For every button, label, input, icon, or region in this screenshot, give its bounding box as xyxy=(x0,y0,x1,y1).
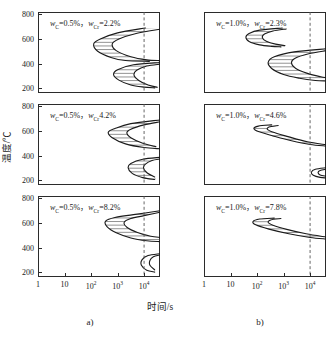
curve-bainite-finish-b1 xyxy=(291,51,326,78)
x-tick-label: 104 xyxy=(305,280,316,291)
x-tick-mark xyxy=(38,273,39,277)
y-tick-mark xyxy=(38,39,42,40)
y-tick-label: 400 xyxy=(14,59,34,68)
subcaption-a: a) xyxy=(70,317,110,327)
x-tick-label: 10 xyxy=(61,280,69,289)
y-tick-mark xyxy=(38,248,42,249)
y-tick-label: 800 xyxy=(14,10,34,19)
ttt-panel-b3: wC=1.0%，wCr=7.8% xyxy=(204,196,326,277)
curve-bainite-finish-a2 xyxy=(143,159,160,177)
x-tick-label: 1 xyxy=(202,280,206,289)
x-tick-mark xyxy=(310,273,311,277)
x-tick-label: 104 xyxy=(139,280,150,291)
y-tick-label: 400 xyxy=(14,151,34,160)
curve-pearlite-finish-a3 xyxy=(124,212,160,237)
x-tick-mark xyxy=(257,273,258,277)
y-axis-title: 温度/℃ xyxy=(0,127,13,167)
y-tick-mark xyxy=(38,106,42,107)
hatch-band-a2-0 xyxy=(38,120,160,149)
x-tick-mark xyxy=(144,273,145,277)
x-tick-mark xyxy=(284,273,285,277)
y-tick-mark xyxy=(38,64,42,65)
hatch-band-a1-1 xyxy=(38,63,160,88)
x-tick-mark xyxy=(65,273,66,277)
condition-label-b2: wC=1.0%，wCr=4.6% xyxy=(216,109,286,122)
y-tick-mark xyxy=(38,14,42,15)
x-tick-label: 102 xyxy=(86,280,97,291)
ttt-panel-a2: wC=0.5%，wCr4.2% xyxy=(38,104,160,185)
x-tick-label: 1 xyxy=(36,280,40,289)
x-tick-label: 10 xyxy=(227,280,235,289)
ttt-panel-a3: wC=0.5%，wCr=8.2% xyxy=(38,196,160,277)
x-tick-mark xyxy=(204,273,205,277)
condition-label-b3: wC=1.0%，wCr=7.8% xyxy=(216,201,286,214)
curve-bainite-finish-b2 xyxy=(318,169,326,176)
y-tick-label: 200 xyxy=(14,84,34,93)
subcaption-b: b) xyxy=(240,317,280,327)
y-tick-mark xyxy=(38,88,42,89)
hatch-band-b1-0 xyxy=(204,28,326,46)
hatch-band-a2-1 xyxy=(38,157,160,179)
y-tick-label: 200 xyxy=(14,268,34,277)
y-tick-label: 600 xyxy=(14,35,34,44)
y-tick-label: 400 xyxy=(14,243,34,252)
x-tick-label: 103 xyxy=(278,280,289,291)
y-tick-label: 800 xyxy=(14,194,34,203)
x-tick-label: 102 xyxy=(252,280,263,291)
condition-label-a1: wC=0.5%，wCr=2.2% xyxy=(50,17,120,30)
ttt-panel-a1: wC=0.5%，wCr=2.2% xyxy=(38,12,160,93)
ttt-panel-b1: wC=1.0%，wCr=2.3% xyxy=(204,12,326,93)
hatch-band-a3-0 xyxy=(38,211,160,240)
y-tick-label: 800 xyxy=(14,102,34,111)
y-tick-mark xyxy=(38,223,42,224)
condition-label-a2: wC=0.5%，wCr4.2% xyxy=(50,109,116,122)
ttt-panel-b2: wC=1.0%，wCr=4.6% xyxy=(204,104,326,185)
curve-bainite-finish-a3 xyxy=(149,255,160,270)
condition-label-b1: wC=1.0%，wCr=2.3% xyxy=(216,17,286,30)
x-tick-mark xyxy=(91,273,92,277)
x-tick-label: 103 xyxy=(112,280,123,291)
x-tick-mark xyxy=(118,273,119,277)
curve-pearlite-finish-a1 xyxy=(112,29,160,60)
y-tick-label: 200 xyxy=(14,176,34,185)
x-axis-title: 时间/s xyxy=(100,299,220,313)
y-tick-label: 600 xyxy=(14,219,34,228)
x-tick-mark xyxy=(231,273,232,277)
condition-label-a3: wC=0.5%，wCr=8.2% xyxy=(50,201,120,214)
y-tick-mark xyxy=(38,156,42,157)
curve-pearlite-finish-a2 xyxy=(127,122,160,147)
ttt-figure: 温度/℃ 时间/s a) b) wC=0.5%，wCr=2.2%wC=0.5%，… xyxy=(0,0,335,339)
curve-pearlite-finish-b3 xyxy=(268,219,326,237)
curve-bainite-finish-a1 xyxy=(134,64,160,87)
y-tick-mark xyxy=(38,180,42,181)
y-tick-label: 600 xyxy=(14,127,34,136)
hatch-band-b3-0 xyxy=(204,218,326,236)
y-tick-mark xyxy=(38,198,42,199)
y-tick-mark xyxy=(38,131,42,132)
